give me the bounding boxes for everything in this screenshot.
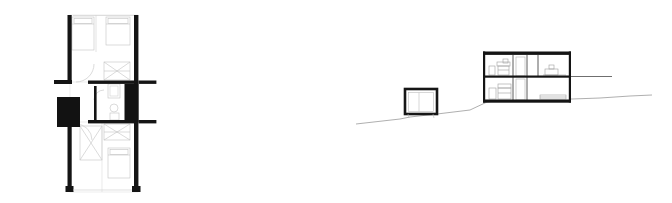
wall-section-left: [483, 52, 485, 103]
roof-slab: [483, 52, 571, 55]
drawing-canvas: [0, 0, 672, 203]
wall-stub-left: [54, 80, 72, 84]
drawing-sheet: [0, 0, 672, 203]
service-core-block: [125, 84, 139, 122]
sheet-background: [0, 0, 672, 203]
core-partition-vertical: [94, 86, 97, 122]
wall-stub-right-upper: [138, 81, 156, 84]
wall-foot-left: [66, 186, 74, 192]
wall-section-right: [569, 52, 571, 103]
intermediate-floor-slab: [483, 76, 571, 78]
outbuilding-interior: [409, 93, 434, 112]
wall-foot-right: [132, 186, 141, 192]
ground-floor-slab: [483, 100, 571, 103]
exterior-wall-left-lower: [68, 122, 72, 192]
stove-block: [57, 97, 80, 127]
exterior-wall-left-upper: [68, 15, 72, 82]
partition-wall-upper: [88, 81, 134, 84]
wall-stub-right-lower: [138, 120, 156, 123]
outbuilding: [405, 89, 437, 118]
